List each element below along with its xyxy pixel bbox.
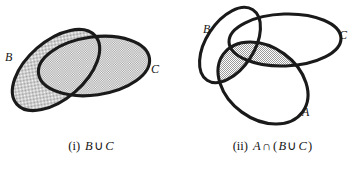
caption-term-b: B [85,139,93,153]
caption-number-union: (i) [68,139,80,153]
set-label-B: B [5,50,13,64]
panel-intersection: B C A (ii)A∩(B∪C) [182,0,364,169]
caption-union: (i)B∪C [0,138,182,154]
set-label-B: B [203,22,211,36]
venn-figure: B C (i)B∪C [0,0,364,169]
set-label-A: A [301,105,310,119]
caption-expression-intersection: A∩(B∪C) [253,139,313,153]
caption-intersection: (ii)A∩(B∪C) [182,138,364,154]
caption-number-intersection: (ii) [233,139,248,153]
caption-term-c: C [298,139,307,153]
caption-term-c: C [105,139,114,153]
union-operator-icon: ∪ [93,139,105,153]
intersection-operator-icon: ∩ [261,139,272,153]
union-operator-icon: ∪ [286,139,298,153]
close-paren: ) [307,139,313,153]
set-label-C: C [151,62,160,76]
panel-union: B C (i)B∪C [0,0,182,169]
set-label-C: C [339,28,348,42]
caption-term-a: A [253,139,261,153]
caption-expression-union: B∪C [85,139,114,153]
